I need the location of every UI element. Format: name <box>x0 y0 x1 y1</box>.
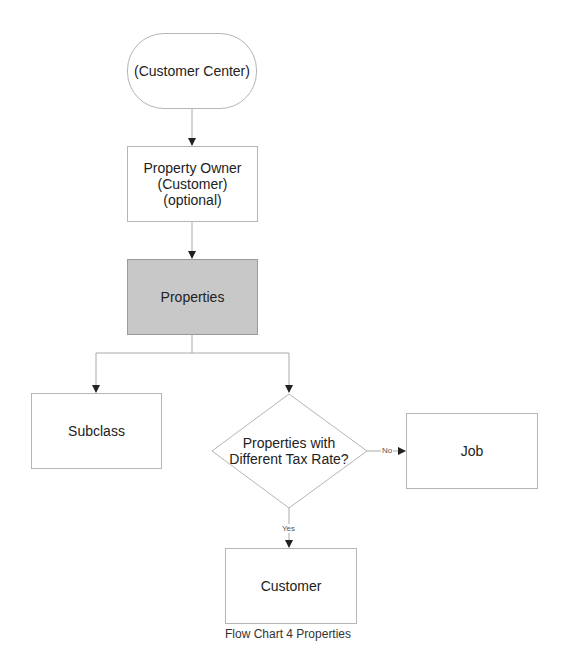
node-property-owner: Property Owner (Customer) (optional) <box>127 146 258 222</box>
decision-label-line: Different Tax Rate? <box>222 451 356 467</box>
node-label: Job <box>461 443 484 459</box>
decision-label-line: Properties with <box>222 435 356 451</box>
node-label-line: (Customer) <box>157 176 227 192</box>
node-label: Customer <box>261 578 322 594</box>
node-label-line: Property Owner <box>143 160 241 176</box>
node-customer-center: (Customer Center) <box>127 33 257 109</box>
node-label: Properties <box>161 289 225 305</box>
node-job: Job <box>406 413 538 489</box>
node-subclass: Subclass <box>31 393 162 469</box>
node-properties: Properties <box>127 259 258 335</box>
edge-label-no: No <box>381 446 393 455</box>
edge-label-yes: Yes <box>281 524 296 533</box>
node-customer: Customer <box>225 548 357 624</box>
figure-caption: Flow Chart 4 Properties <box>225 627 351 641</box>
decision-text: Properties with Different Tax Rate? <box>222 435 356 467</box>
node-label: Subclass <box>68 423 125 439</box>
node-label-line: (optional) <box>163 192 221 208</box>
node-label: (Customer Center) <box>134 63 250 79</box>
